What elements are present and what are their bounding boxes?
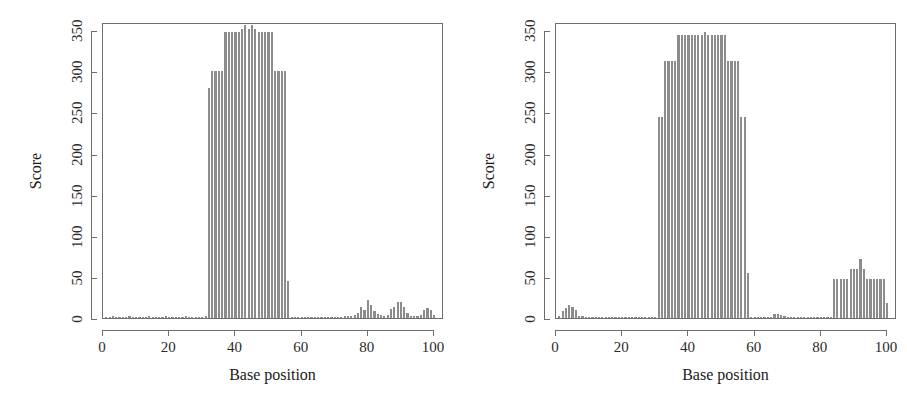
bar [843, 279, 845, 318]
bar [406, 313, 408, 318]
bar [711, 35, 713, 318]
y-axis-tick-label: 250 [523, 102, 538, 124]
bar [644, 317, 646, 318]
bar [558, 316, 560, 318]
bar [763, 317, 765, 318]
bar [720, 35, 722, 318]
bar [611, 317, 613, 318]
bar [188, 317, 190, 318]
bar [565, 308, 567, 318]
bar [155, 317, 157, 318]
bar [595, 317, 597, 318]
bar [724, 35, 726, 318]
bar [301, 317, 303, 318]
bar [667, 61, 669, 318]
bar [310, 317, 312, 318]
bar [618, 317, 620, 318]
bar [380, 315, 382, 318]
x-axis-tick [886, 330, 887, 336]
bar [628, 317, 630, 318]
bar [320, 317, 322, 318]
bar [797, 317, 799, 318]
bar [681, 35, 683, 318]
y-axis-tick [91, 319, 97, 320]
y-axis-tick-label: 0 [523, 308, 538, 330]
y-axis-tick-label: 0 [70, 308, 85, 330]
bar [740, 117, 742, 318]
bar [350, 316, 352, 318]
x-axis-tick-label: 20 [614, 340, 629, 355]
bar [737, 61, 739, 318]
plot-area-left [103, 24, 442, 318]
bar [234, 32, 236, 318]
bar [426, 308, 428, 318]
bar [158, 317, 160, 318]
bar [334, 317, 336, 318]
bar [856, 269, 858, 318]
bar [287, 281, 289, 318]
bar [684, 35, 686, 318]
bar [244, 25, 246, 318]
y-axis-tick-label: 300 [523, 61, 538, 83]
bar [307, 317, 309, 318]
plot-area-right [556, 24, 895, 318]
bar [654, 317, 656, 318]
bar [373, 311, 375, 318]
bar [314, 317, 316, 318]
bar [291, 317, 293, 318]
bar [238, 32, 240, 318]
chart-panel-right: Score Base position 02040608010005010015… [453, 0, 906, 399]
bar [360, 307, 362, 319]
x-axis-line [102, 330, 433, 331]
x-axis-tick-label: 60 [293, 340, 308, 355]
bar [337, 317, 339, 318]
bar [575, 310, 577, 318]
bar [344, 316, 346, 318]
x-axis-tick-label: 100 [422, 340, 445, 355]
y-axis-tick-label: 300 [70, 61, 85, 83]
x-axis-title-right: Base position [682, 367, 769, 383]
bar [836, 279, 838, 318]
bar [793, 317, 795, 318]
bar [403, 307, 405, 319]
bar [416, 316, 418, 318]
x-axis-tick-label: 80 [812, 340, 827, 355]
bar [727, 61, 729, 318]
bar [813, 317, 815, 318]
bar [694, 35, 696, 318]
y-axis-tick-label: 100 [523, 226, 538, 248]
bar [304, 317, 306, 318]
y-axis-tick-label: 150 [70, 185, 85, 207]
bar [281, 71, 283, 318]
bar [810, 317, 812, 318]
bar [777, 314, 779, 318]
bar [605, 317, 607, 318]
bar [347, 316, 349, 318]
bar [760, 317, 762, 318]
bar [879, 279, 881, 318]
x-axis-tick-label: 20 [161, 340, 176, 355]
bar [850, 269, 852, 318]
bar [214, 71, 216, 318]
bar [330, 317, 332, 318]
y-axis-tick-label: 350 [70, 20, 85, 42]
x-axis-tick-label: 0 [551, 340, 559, 355]
bar [773, 314, 775, 318]
bar [648, 317, 650, 318]
bar [800, 317, 802, 318]
bar [744, 117, 746, 318]
bar [324, 317, 326, 318]
bar [591, 317, 593, 318]
bar [754, 317, 756, 318]
bar [634, 317, 636, 318]
bar [859, 259, 861, 318]
bar [840, 279, 842, 318]
x-axis-line [555, 330, 886, 331]
bar [770, 317, 772, 318]
bar [383, 316, 385, 318]
bar [734, 61, 736, 318]
y-axis-line [544, 31, 545, 319]
bar [251, 25, 253, 318]
bar [651, 317, 653, 318]
bar [241, 29, 243, 318]
